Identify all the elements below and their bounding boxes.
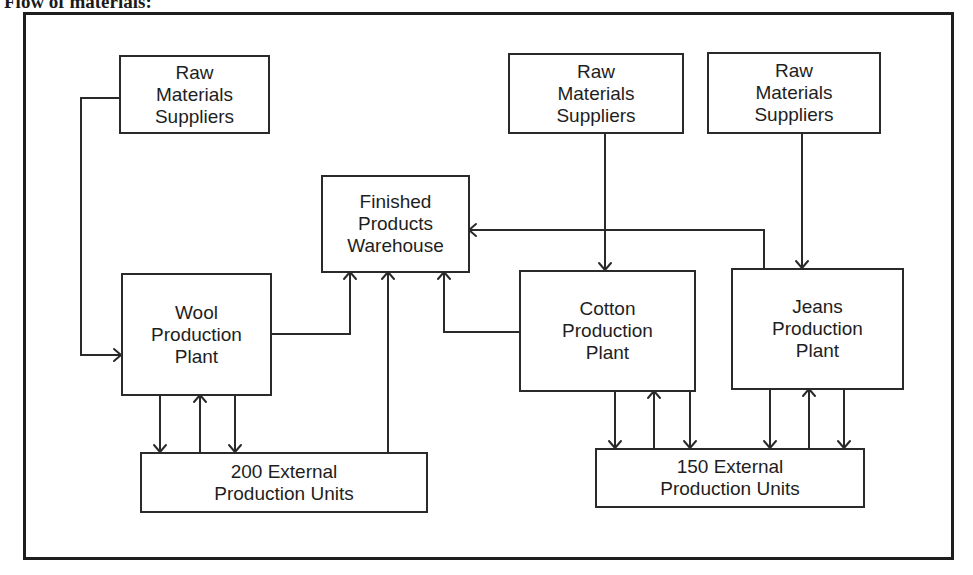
- raw-materials-suppliers-wool: Raw Materials Suppliers: [119, 55, 270, 134]
- wool-production-plant: Wool Production Plant: [121, 273, 272, 396]
- node-label-line: Production Units: [214, 483, 353, 505]
- node-label-line: Products: [358, 213, 433, 235]
- jeans-production-plant: Jeans Production Plant: [731, 268, 904, 390]
- cotton-production-plant: Cotton Production Plant: [519, 270, 696, 392]
- node-label-line: Materials: [755, 82, 832, 104]
- finished-products-warehouse: Finished Products Warehouse: [321, 175, 470, 273]
- node-label-line: Suppliers: [556, 105, 635, 127]
- node-label-line: Plant: [175, 346, 218, 368]
- node-label-line: Plant: [586, 342, 629, 364]
- node-label-line: Cotton: [580, 298, 636, 320]
- node-label-line: 200 External: [231, 461, 338, 483]
- raw-materials-suppliers-jeans: Raw Materials Suppliers: [707, 52, 881, 134]
- node-label-line: Plant: [796, 340, 839, 362]
- node-label-line: Raw: [775, 60, 813, 82]
- node-label-line: Suppliers: [155, 106, 234, 128]
- node-label-line: Production: [562, 320, 653, 342]
- node-label-line: Production: [772, 318, 863, 340]
- node-label-line: Warehouse: [347, 235, 443, 257]
- node-label-line: Materials: [156, 84, 233, 106]
- node-label-line: Production Units: [660, 478, 799, 500]
- external-production-units-150: 150 External Production Units: [595, 448, 865, 508]
- node-label-line: Jeans: [792, 296, 843, 318]
- node-label-line: Wool: [175, 302, 218, 324]
- raw-materials-suppliers-cotton: Raw Materials Suppliers: [508, 53, 684, 134]
- node-label-line: Raw: [175, 62, 213, 84]
- external-production-units-200: 200 External Production Units: [140, 452, 428, 513]
- node-label-line: Raw: [577, 61, 615, 83]
- node-label-line: 150 External: [677, 456, 784, 478]
- node-label-line: Finished: [360, 191, 432, 213]
- node-label-line: Production: [151, 324, 242, 346]
- node-label-line: Suppliers: [754, 104, 833, 126]
- node-label-line: Materials: [557, 83, 634, 105]
